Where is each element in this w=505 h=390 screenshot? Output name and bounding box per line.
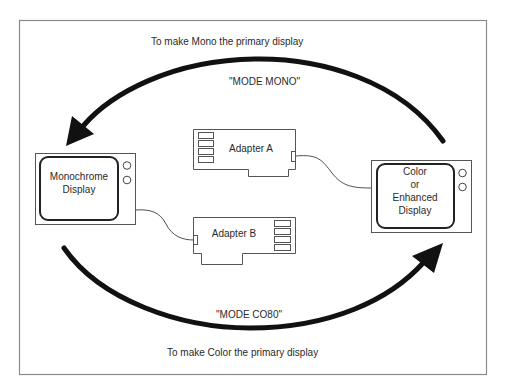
port-icon (199, 149, 214, 155)
adapter-a-label: Adapter A (229, 143, 273, 154)
port-icon (275, 245, 291, 251)
cable-mono-to-adapter-b (136, 210, 194, 240)
cable-adapter-a-to-color (296, 156, 371, 188)
port-icon (199, 157, 214, 163)
knob-icon (123, 162, 131, 170)
port-icon (199, 141, 214, 147)
mode-mono-command: "MODE MONO" (229, 76, 300, 87)
color-display-label-4: Display (399, 205, 432, 216)
knob-icon (123, 176, 131, 184)
knob-icon (459, 183, 467, 191)
port-icon (275, 237, 291, 243)
adapter-b-card: Adapter B (194, 218, 296, 265)
port-icon (275, 229, 291, 235)
display-switch-diagram: To make Mono the primary display "MODE M… (0, 0, 505, 390)
mode-co80-command: "MODE CO80" (216, 309, 282, 320)
monochrome-display: Monochrome Display (36, 154, 136, 225)
top-caption: To make Mono the primary display (151, 36, 303, 47)
mono-display-label-2: Display (63, 184, 96, 195)
mono-display-label-1: Monochrome (50, 171, 109, 182)
adapter-b-label: Adapter B (212, 228, 257, 239)
connector-icon (194, 236, 198, 245)
adapter-a-card: Adapter A (194, 130, 296, 177)
color-display: Color or Enhanced Display (372, 161, 472, 233)
color-display-label-2: or (411, 179, 421, 190)
knob-icon (459, 169, 467, 177)
color-display-label-1: Color (403, 166, 428, 177)
color-display-label-3: Enhanced (392, 192, 437, 203)
port-icon (199, 133, 214, 139)
bottom-caption: To make Color the primary display (167, 347, 318, 358)
port-icon (275, 221, 291, 227)
connector-icon (292, 152, 296, 162)
